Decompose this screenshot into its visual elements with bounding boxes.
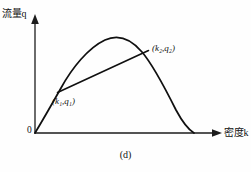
plot-canvas [0,0,251,172]
figure-container: 流量q 密度k 0 (k₁,q₁) (k₂,q₂) (d) [0,0,251,172]
x-axis-arrowhead [212,129,222,137]
figure-caption: (d) [0,150,251,160]
y-axis-label: 流量q [2,9,26,19]
x-axis-label: 密度k [224,128,248,138]
point-2-label: (k₂,q₂) [152,44,175,53]
point-1-label: (k₁,q₁) [52,97,75,106]
y-axis-arrowhead [31,14,39,24]
origin-label: 0 [27,126,32,136]
